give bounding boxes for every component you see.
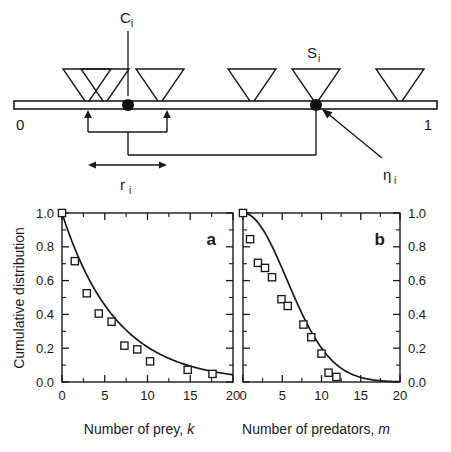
y-tick-label: 0.6 (36, 273, 54, 288)
x-tick-label: 0 (239, 388, 246, 403)
data-point-marker (121, 342, 128, 349)
y-tick-label: 0.0 (408, 375, 426, 390)
figure-root: 0 1 C i S i (0, 0, 451, 452)
label-eta-subscript: i (394, 175, 396, 186)
data-point-marker (83, 290, 90, 297)
data-point-marker (58, 209, 65, 216)
panel-b-x-axis-title: Number of predators,m (242, 421, 390, 437)
panel-b-letter: b (375, 230, 385, 249)
label-species-s-subscript: i (318, 53, 320, 64)
axis-bar-rect (14, 101, 437, 109)
x-tick-label: 20 (393, 388, 407, 403)
panel-a-letter: a (207, 230, 217, 249)
x-tick-label: 15 (183, 388, 197, 403)
panel-b-x-axis-title-text: Number of predators, (242, 421, 374, 437)
svg-text:Number of prey,k: Number of prey,k (84, 421, 195, 437)
data-point-marker (268, 274, 275, 281)
y-tick-label: 0.8 (408, 239, 426, 254)
panel-a-x-axis-variable: k (187, 421, 195, 437)
label-species-s: S (307, 44, 317, 61)
y-tick-label: 0.2 (408, 341, 426, 356)
panel-b-x-axis-variable: m (378, 421, 390, 437)
y-axis-title: Cumulative distribution (11, 227, 27, 369)
data-point-marker (308, 334, 315, 341)
data-point-marker (318, 350, 325, 357)
x-tick-label: 10 (314, 388, 328, 403)
svg-text:Number of predators,m: Number of predators,m (242, 421, 390, 437)
data-point-marker (146, 358, 153, 365)
data-point-marker (71, 258, 78, 265)
data-point-marker (108, 318, 115, 325)
data-point-marker (246, 236, 253, 243)
data-point-marker (184, 366, 191, 373)
y-tick-label: 0.2 (36, 341, 54, 356)
data-point-marker (254, 259, 261, 266)
label-eta: η (383, 166, 391, 183)
axis-label-one: 1 (424, 116, 432, 133)
y-tick-label: 0.6 (408, 273, 426, 288)
x-tick-label: 10 (140, 388, 154, 403)
data-point-marker (95, 310, 102, 317)
label-range-r: r (120, 176, 125, 193)
y-tick-label: 0.4 (408, 307, 426, 322)
x-tick-label: 5 (101, 388, 108, 403)
niche-axis-bar (14, 101, 437, 109)
panel-a-x-axis-title: Number of prey,k (84, 421, 195, 437)
y-tick-label: 0.4 (36, 307, 54, 322)
data-point-marker (284, 302, 291, 309)
y-tick-label: 0.0 (36, 375, 54, 390)
x-tick-label: 5 (279, 388, 286, 403)
data-point-marker (239, 209, 246, 216)
label-range-r-subscript: i (129, 185, 131, 196)
label-center-c: C (120, 9, 131, 26)
panel-a-x-axis-title-text: Number of prey, (84, 421, 183, 437)
y-tick-label: 1.0 (408, 206, 426, 221)
data-point-marker (134, 346, 141, 353)
data-point-marker (300, 321, 307, 328)
x-tick-label: 15 (354, 388, 368, 403)
data-point-marker (325, 369, 332, 376)
center-dot (122, 99, 134, 111)
y-tick-label: 1.0 (36, 206, 54, 221)
data-point-marker (261, 264, 268, 271)
data-point-marker (333, 373, 340, 380)
x-tick-label: 20 (226, 388, 240, 403)
axis-label-zero: 0 (16, 116, 24, 133)
figure-canvas: 0 1 C i S i (0, 0, 451, 452)
x-tick-label: 0 (58, 388, 65, 403)
label-center-c-subscript: i (131, 18, 133, 29)
y-tick-label: 0.8 (36, 239, 54, 254)
data-point-marker (209, 370, 216, 377)
figure-background (0, 0, 451, 452)
